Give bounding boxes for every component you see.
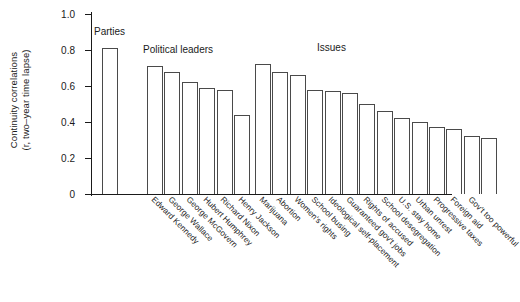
group-label-parties: Parties (94, 26, 125, 37)
group-label-issues: Issues (317, 42, 346, 53)
y-axis-tick-label: 0.4 (61, 117, 75, 128)
y-axis-tick: 0.4 (85, 122, 91, 123)
bar (217, 90, 233, 194)
y-axis-title: Continuity correlations (r, two–year tim… (0, 0, 40, 200)
bar (290, 75, 306, 194)
bar (377, 111, 393, 194)
bar (429, 127, 445, 194)
y-axis-tick: 0.6 (85, 86, 91, 87)
bar (446, 129, 462, 194)
y-axis-tick: 0.2 (85, 158, 91, 159)
bar (359, 104, 375, 194)
y-axis-title-line2: (r, two–year time lapse) (20, 49, 32, 150)
bar (182, 82, 198, 194)
bar (164, 72, 180, 194)
bar (147, 66, 163, 194)
y-axis-tick-label: 1.0 (61, 9, 75, 20)
y-axis-title-line1: Continuity correlations (8, 49, 20, 150)
y-axis-tick: 1.0 (85, 14, 91, 15)
bar (199, 88, 215, 194)
bar (481, 138, 497, 194)
bar-series (92, 14, 452, 194)
bar (412, 122, 428, 194)
y-axis-tick-label: 0.8 (61, 45, 75, 56)
bar (325, 91, 341, 194)
y-axis-tick: 0.8 (85, 50, 91, 51)
y-axis-tick-label: 0 (69, 189, 75, 200)
bar (272, 72, 288, 194)
y-axis-tick: 0 (85, 194, 91, 195)
plot-area: 1.00.80.60.40.20 PartiesPolitical leader… (92, 14, 452, 194)
bar (307, 90, 323, 194)
y-axis-tick-label: 0.2 (61, 153, 75, 164)
y-axis-tick-label: 0.6 (61, 81, 75, 92)
bar (102, 48, 118, 194)
bar (342, 93, 358, 194)
bar (234, 115, 250, 194)
bar (394, 118, 410, 194)
x-axis-category-labels: Edward KennedyGeorge WallaceGeorge McGov… (92, 195, 478, 302)
bar (464, 136, 480, 194)
bar (255, 64, 271, 194)
group-label-political-leaders: Political leaders (143, 44, 213, 55)
